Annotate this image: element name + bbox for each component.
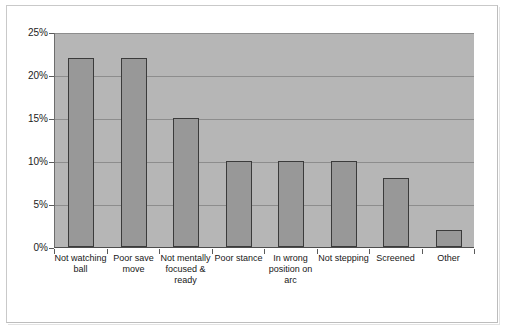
y-axis-tick-label: 5%: [16, 200, 48, 210]
y-axis-tick-label: 15%: [16, 114, 48, 124]
gridline: [55, 205, 474, 206]
x-axis-category-label: Not watching ball: [54, 253, 107, 275]
y-axis-tick-label: 20%: [16, 71, 48, 81]
gridline: [55, 33, 474, 34]
chart-figure: 0%5%10%15%20%25% Not watching ballPoor s…: [0, 0, 506, 332]
x-axis-category-label: Screened: [369, 253, 422, 264]
x-axis-category-label: Poor stance: [212, 253, 265, 264]
bar: [331, 161, 357, 247]
y-axis-tick-label: 25%: [16, 28, 48, 38]
x-axis-category-label: In wrong position on arc: [264, 253, 317, 286]
y-axis-tick-label: 10%: [16, 157, 48, 167]
bar: [68, 58, 94, 247]
gridline: [55, 76, 474, 77]
x-axis-category-label: Other: [422, 253, 475, 264]
gridline: [55, 119, 474, 120]
x-axis-category-label: Poor save move: [107, 253, 160, 275]
x-axis-category-label: Not mentally focused & ready: [159, 253, 212, 286]
bar: [121, 58, 147, 247]
bar: [278, 161, 304, 247]
gridline: [55, 162, 474, 163]
bar: [436, 230, 462, 247]
x-axis-category-label: Not stepping: [317, 253, 370, 264]
plot-area: [54, 33, 474, 248]
bar: [383, 178, 409, 247]
y-axis-tick-label: 0%: [16, 243, 48, 253]
bar: [226, 161, 252, 247]
bar: [173, 118, 199, 247]
